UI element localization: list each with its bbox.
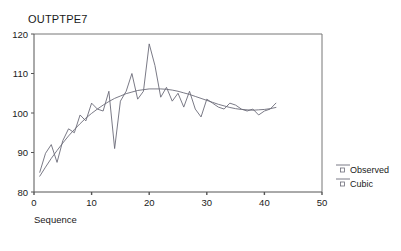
- plot-frame: [34, 34, 322, 192]
- chart-legend: Observed Cubic: [336, 165, 389, 189]
- series-line-cubic: [40, 89, 276, 176]
- x-axis-ticks: 01020304050: [31, 192, 327, 208]
- series-line-observed: [40, 44, 276, 172]
- chart-screenshot: OUTPTPE7 1201101009080 01020304050 Seque…: [0, 0, 401, 251]
- y-tick-label: 110: [13, 68, 28, 79]
- y-tick-label: 90: [17, 147, 28, 158]
- x-tick-label: 20: [144, 197, 155, 208]
- legend-label-observed: Observed: [350, 165, 389, 175]
- y-tick-label: 80: [17, 187, 28, 198]
- x-tick-label: 10: [86, 197, 97, 208]
- legend-marker-cubic: [341, 182, 345, 186]
- legend-label-cubic: Cubic: [350, 179, 374, 189]
- x-tick-label: 50: [317, 197, 328, 208]
- y-tick-label: 120: [12, 29, 28, 40]
- x-axis-title: Sequence: [34, 214, 77, 225]
- y-tick-label: 100: [12, 108, 28, 119]
- x-tick-label: 0: [31, 197, 36, 208]
- legend-marker-observed: [341, 168, 345, 172]
- chart-plot-area: 1201101009080 01020304050 Sequence Obser…: [0, 0, 401, 251]
- x-tick-label: 40: [259, 197, 270, 208]
- y-axis-ticks: 1201101009080: [12, 29, 34, 198]
- x-tick-label: 30: [202, 197, 213, 208]
